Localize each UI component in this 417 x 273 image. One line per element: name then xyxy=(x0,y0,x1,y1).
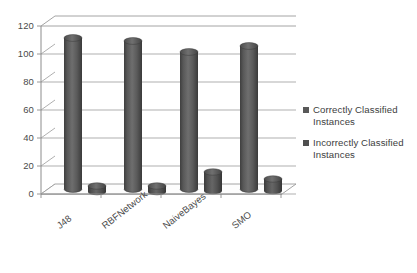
x-tick-naivebayes: NaiveBayes xyxy=(161,191,208,231)
legend-item-incorrectly-classified[interactable]: Incorrectly ClassifiedInstances xyxy=(303,137,415,161)
legend-label-line1: Incorrectly Classified xyxy=(313,137,404,148)
chart-legend: Correctly ClassifiedInstances Incorrectl… xyxy=(303,104,415,170)
x-tick-smo: SMO xyxy=(230,209,253,230)
legend-label-line1: Correctly Classified xyxy=(313,104,398,115)
legend-swatch-incorrectly-classified xyxy=(303,140,309,146)
legend-swatch-correctly-classified xyxy=(303,107,309,113)
x-tick-rbfnetwork: RBFNetwork xyxy=(100,189,149,231)
legend-label-line2: Instances xyxy=(313,116,355,127)
legend-label-line2: Instances xyxy=(313,149,355,160)
legend-label-correctly-classified: Correctly ClassifiedInstances xyxy=(313,104,398,128)
legend-label-incorrectly-classified: Incorrectly ClassifiedInstances xyxy=(313,137,404,161)
chart-container: 120 100 80 60 40 20 0 J48 RBFNetwork Nai… xyxy=(0,0,417,273)
x-tick-j48: J48 xyxy=(55,213,73,230)
legend-item-correctly-classified[interactable]: Correctly ClassifiedInstances xyxy=(303,104,415,128)
